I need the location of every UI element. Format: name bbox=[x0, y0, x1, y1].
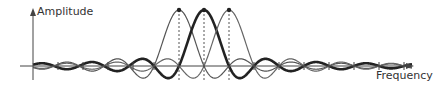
y-axis-label: Amplitude bbox=[37, 5, 93, 18]
subcarrier-3-peak-dot bbox=[227, 8, 231, 12]
axes bbox=[20, 8, 414, 80]
subcarrier-1-curve bbox=[33, 10, 412, 78]
subcarrier-2-curve bbox=[33, 10, 412, 78]
subcarrier-1-peak-dot bbox=[177, 8, 181, 12]
subcarrier-curves bbox=[33, 10, 412, 78]
peak-markers bbox=[177, 8, 231, 12]
subcarrier-3-curve bbox=[33, 10, 412, 78]
y-axis-arrow-icon bbox=[30, 8, 36, 16]
subcarrier-2-peak-dot bbox=[202, 8, 206, 12]
x-axis-label: Frequency bbox=[376, 69, 433, 82]
